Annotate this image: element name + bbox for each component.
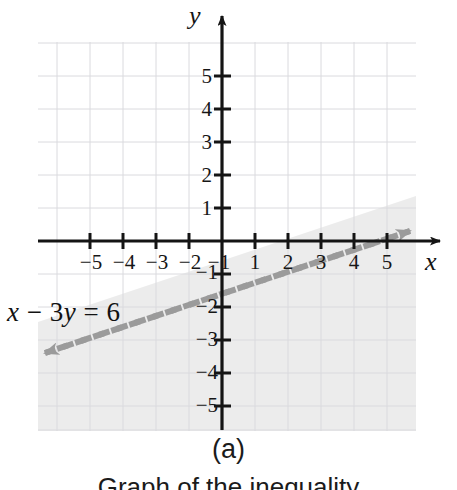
y-tick-label-5: 5 xyxy=(202,66,213,87)
equation-rhs: 6 xyxy=(106,297,120,327)
y-tick-label-1: 1 xyxy=(202,198,213,219)
x-tick-label-2: 2 xyxy=(283,252,294,273)
figure-part-caption: (a) xyxy=(0,436,457,463)
figure-description-caption: Graph of the inequality xyxy=(0,474,457,490)
equation-var-y: y xyxy=(64,297,76,327)
equation-equals: = xyxy=(83,297,99,327)
equation-coefficient: 3 xyxy=(50,297,64,327)
x-tick-label-5: 5 xyxy=(382,252,393,273)
inequality-graph-figure: −5 −4 −3 −2 −1 1 2 3 4 5 5 4 3 2 1 −1 −2… xyxy=(0,0,457,490)
x-tick-label-4: 4 xyxy=(349,252,360,273)
y-tick-label--5: −5 xyxy=(196,395,218,416)
equation-annotation: x − 3y = 6 xyxy=(7,297,120,328)
x-tick-label--4: −4 xyxy=(113,252,135,273)
y-tick-label--2: −2 xyxy=(196,296,218,317)
y-tick-label-2: 2 xyxy=(202,165,213,186)
coordinate-plane xyxy=(0,0,457,490)
y-tick-label--1: −1 xyxy=(196,262,218,283)
y-tick-label-3: 3 xyxy=(202,132,213,153)
x-tick-label--5: −5 xyxy=(80,252,102,273)
x-tick-label-1: 1 xyxy=(250,252,261,273)
x-axis-label: x xyxy=(425,249,437,275)
y-tick-label--4: −4 xyxy=(196,362,218,383)
equation-var-x: x xyxy=(7,297,19,327)
x-tick-label--3: −3 xyxy=(146,252,168,273)
y-tick-label--3: −3 xyxy=(196,329,218,350)
y-tick-label-4: 4 xyxy=(202,99,213,120)
x-tick-label-3: 3 xyxy=(316,252,327,273)
equation-minus: − xyxy=(27,297,43,327)
y-axis-label: y xyxy=(189,3,201,29)
